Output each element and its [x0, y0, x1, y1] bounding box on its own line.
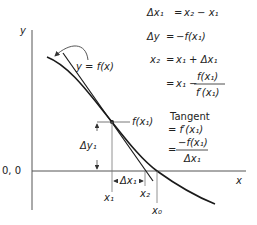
tangent-frac-den: Δx₁	[183, 153, 201, 164]
eq1-lhs: Δx₁	[146, 7, 164, 18]
y-axis-label: y	[19, 25, 27, 36]
eq4-eq: =	[166, 78, 174, 89]
tangent-line1: = f′(x₁)	[168, 124, 203, 135]
tangent-frac-prefix: =	[168, 144, 176, 155]
eq2-lhs: Δy	[146, 31, 161, 42]
eq4-den: f′(x₁)	[196, 87, 220, 98]
eq3-rhs: x₁ + Δx₁	[175, 54, 217, 65]
x2-label: x₂	[139, 188, 150, 199]
eq1-eq: =	[174, 7, 182, 18]
delta-y-label: Δy₁	[79, 140, 97, 151]
tangent-title: Tangent	[169, 111, 210, 122]
x1-label: x₁	[103, 192, 114, 203]
point-label: f(x₁)	[132, 116, 153, 127]
eq3-lhs: x₂	[149, 54, 160, 65]
eq3-eq: =	[166, 54, 174, 65]
tangent-frac-num: −f(x₁)	[178, 137, 208, 148]
delta-x-label: Δx₁	[119, 175, 137, 186]
newton-method-diagram: y x 0, 0 y = f(x) f(x₁) Δy₁ Δx₁ x₁ x₂ x₀…	[0, 0, 257, 225]
eq4-num: f(x₁)	[197, 71, 218, 82]
eq4-prefix: x₁ −	[175, 78, 197, 89]
eq2-rhs: −f(x₁)	[176, 31, 206, 42]
origin-label: 0, 0	[2, 165, 21, 176]
curve-label: y = f(x)	[75, 61, 114, 72]
x0-label: x₀	[151, 205, 162, 216]
x-axis-label: x	[235, 175, 242, 186]
curve-pointer-arrow	[55, 46, 88, 60]
eq2-eq: =	[166, 31, 174, 42]
eq1-rhs: x₂ − x₁	[183, 7, 219, 18]
